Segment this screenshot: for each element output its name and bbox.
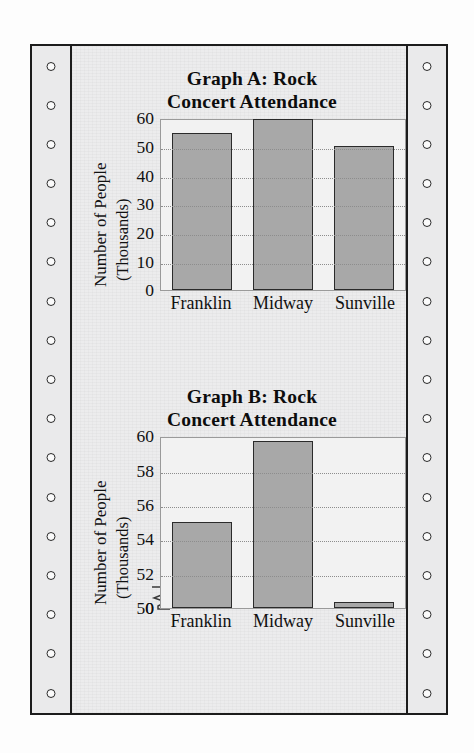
x-tick-label: Franklin	[160, 611, 242, 632]
gridline	[161, 149, 405, 150]
y-tick-label: 10	[137, 253, 155, 271]
sprocket-hole	[423, 140, 432, 149]
figure-graph-a: Graph A: Rock Concert Attendance Number …	[72, 68, 406, 324]
graph-a-x-labels: FranklinMidwaySunville	[160, 293, 406, 314]
sprocket-hole	[423, 453, 432, 462]
graph-b-plot	[160, 437, 406, 609]
y-tick-label: 20	[137, 225, 155, 243]
gridline	[161, 541, 405, 542]
bar	[334, 146, 394, 290]
graph-b-y-ticks: 6058565452500	[116, 437, 156, 609]
y-tick-label: 60	[137, 428, 155, 446]
gridline	[161, 507, 405, 508]
x-tick-label: Midway	[242, 293, 324, 314]
scanned-page: Graph A: Rock Concert Attendance Number …	[0, 0, 474, 753]
sprocket-hole	[423, 532, 432, 541]
sprocket-hole	[423, 336, 432, 345]
sprocket-hole	[47, 532, 56, 541]
gridline	[161, 576, 405, 577]
sprocket-hole	[47, 101, 56, 110]
gridline	[161, 235, 405, 236]
sprocket-hole	[423, 179, 432, 188]
graph-b-x-labels: FranklinMidwaySunville	[160, 611, 406, 632]
graph-b-plot-area: Number of People (Thousands) 60585654525…	[72, 437, 406, 642]
gridline	[161, 473, 405, 474]
gridline	[161, 206, 405, 207]
sprocket-hole	[47, 297, 56, 306]
gridline	[161, 178, 405, 179]
x-tick-label: Midway	[242, 611, 324, 632]
bar	[334, 602, 394, 608]
printout-content: Graph A: Rock Concert Attendance Number …	[72, 46, 406, 713]
graph-a-y-ticks: 6050403020100	[116, 119, 156, 291]
sprocket-hole	[423, 101, 432, 110]
sprocket-hole	[423, 297, 432, 306]
graph-a-bars	[161, 120, 405, 290]
bar	[172, 522, 232, 608]
sprocket-hole	[423, 571, 432, 580]
graph-a-plot-area: Number of People (Thousands) 60504030201…	[72, 119, 406, 324]
sprocket-hole	[47, 571, 56, 580]
y-tick-label: 30	[137, 196, 155, 214]
sprocket-hole	[423, 493, 432, 502]
y-tick-label: 60	[137, 110, 155, 128]
sprocket-hole	[47, 610, 56, 619]
sprocket-hole	[47, 649, 56, 658]
sprocket-strip-right	[406, 46, 446, 713]
sprocket-hole	[423, 649, 432, 658]
sprocket-hole	[47, 414, 56, 423]
sprocket-hole	[47, 689, 56, 698]
y-tick-label: 0	[145, 282, 154, 300]
tractor-feed-sheet: Graph A: Rock Concert Attendance Number …	[30, 44, 448, 715]
figure-graph-b: Graph B: Rock Concert Attendance Number …	[72, 386, 406, 642]
graph-a-title: Graph A: Rock Concert Attendance	[72, 68, 406, 113]
sprocket-hole	[423, 414, 432, 423]
y-tick-label: 56	[137, 497, 155, 515]
graph-a-plot	[160, 119, 406, 291]
graph-b-title: Graph B: Rock Concert Attendance	[72, 386, 406, 431]
sprocket-hole	[47, 375, 56, 384]
sprocket-hole	[423, 375, 432, 384]
sprocket-hole	[47, 336, 56, 345]
x-tick-label: Sunville	[324, 293, 406, 314]
graph-b-title-line1: Graph B: Rock	[187, 386, 317, 407]
graph-b-ylabel-line1: Number of People	[74, 437, 96, 609]
sprocket-hole	[423, 610, 432, 619]
sprocket-hole	[47, 62, 56, 71]
sprocket-hole	[47, 453, 56, 462]
y-tick-label: 58	[137, 463, 155, 481]
graph-a-title-line1: Graph A: Rock	[187, 68, 317, 89]
sprocket-hole	[423, 689, 432, 698]
bar	[172, 133, 232, 291]
sprocket-hole	[423, 257, 432, 266]
sprocket-hole	[47, 218, 56, 227]
sprocket-hole	[47, 257, 56, 266]
y-tick-label: 52	[137, 566, 155, 584]
y-tick-label: 50	[137, 139, 155, 157]
graph-b-bars	[161, 438, 405, 608]
x-tick-label: Sunville	[324, 611, 406, 632]
graph-a-ylabel-line1: Number of People	[74, 119, 96, 291]
sprocket-hole	[423, 62, 432, 71]
sprocket-strip-left	[32, 46, 72, 713]
graph-a-ylabel-line2: (Thousands)	[96, 119, 118, 291]
graph-b-ylabel-line2: (Thousands)	[96, 437, 118, 609]
y-tick-label: 40	[137, 167, 155, 185]
x-tick-label: Franklin	[160, 293, 242, 314]
gridline	[161, 264, 405, 265]
bar	[253, 119, 313, 290]
sprocket-hole	[47, 179, 56, 188]
sprocket-hole	[47, 493, 56, 502]
y-tick-label: 54	[137, 531, 155, 549]
sprocket-hole	[423, 218, 432, 227]
sprocket-hole	[47, 140, 56, 149]
bar	[253, 441, 313, 608]
